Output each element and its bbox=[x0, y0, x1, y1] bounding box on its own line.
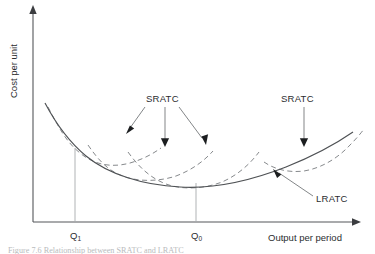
sratc-left-leader-1 bbox=[130, 107, 145, 128]
sratc-curve-2 bbox=[88, 145, 213, 180]
lratc-label: LRATC bbox=[316, 193, 348, 204]
tick-label-q1-base: Q bbox=[70, 230, 77, 241]
sratc-left-arrowhead-1 bbox=[126, 125, 134, 134]
sratc-curve-1 bbox=[48, 107, 161, 165]
tick-label-q0-base: Q bbox=[191, 230, 198, 241]
tick-label-q0: Q0 bbox=[191, 230, 202, 242]
sratc-left-arrowhead-3 bbox=[201, 134, 208, 145]
annotation-sratc-right: SRATC bbox=[281, 93, 314, 147]
sratc-left-leader-3 bbox=[179, 107, 202, 138]
y-axis-label: Cost per unit bbox=[8, 44, 19, 98]
sratc-curves-group bbox=[48, 107, 364, 188]
lratc-curve bbox=[45, 103, 353, 187]
sratc-right-label: SRATC bbox=[281, 93, 314, 104]
tick-label-q1: Q1 bbox=[70, 230, 81, 242]
sratc-left-arrowhead-2 bbox=[161, 138, 169, 147]
sratc-right-arrowhead bbox=[300, 138, 308, 147]
figure-caption: Figure 7.6 Relationship between SRATC an… bbox=[8, 246, 184, 254]
figure-container: Cost per unit Output per period SRATC bbox=[0, 0, 375, 254]
x-axis-label: Output per period bbox=[268, 232, 342, 243]
axes-group bbox=[29, 5, 361, 226]
y-axis-arrowhead bbox=[29, 5, 36, 14]
tick-label-q1-sub: 1 bbox=[77, 235, 81, 242]
annotation-lratc: LRATC bbox=[273, 169, 348, 204]
annotation-sratc-left: SRATC bbox=[126, 93, 208, 147]
cost-curve-chart: Cost per unit Output per period SRATC bbox=[0, 0, 375, 254]
droplines-group bbox=[75, 148, 196, 222]
lratc-leader bbox=[279, 173, 313, 196]
sratc-left-label: SRATC bbox=[146, 93, 179, 104]
x-axis-arrowhead bbox=[352, 218, 361, 225]
tick-label-q0-sub: 0 bbox=[198, 235, 202, 242]
x-tick-labels-group: Q1 Q0 bbox=[70, 230, 202, 242]
